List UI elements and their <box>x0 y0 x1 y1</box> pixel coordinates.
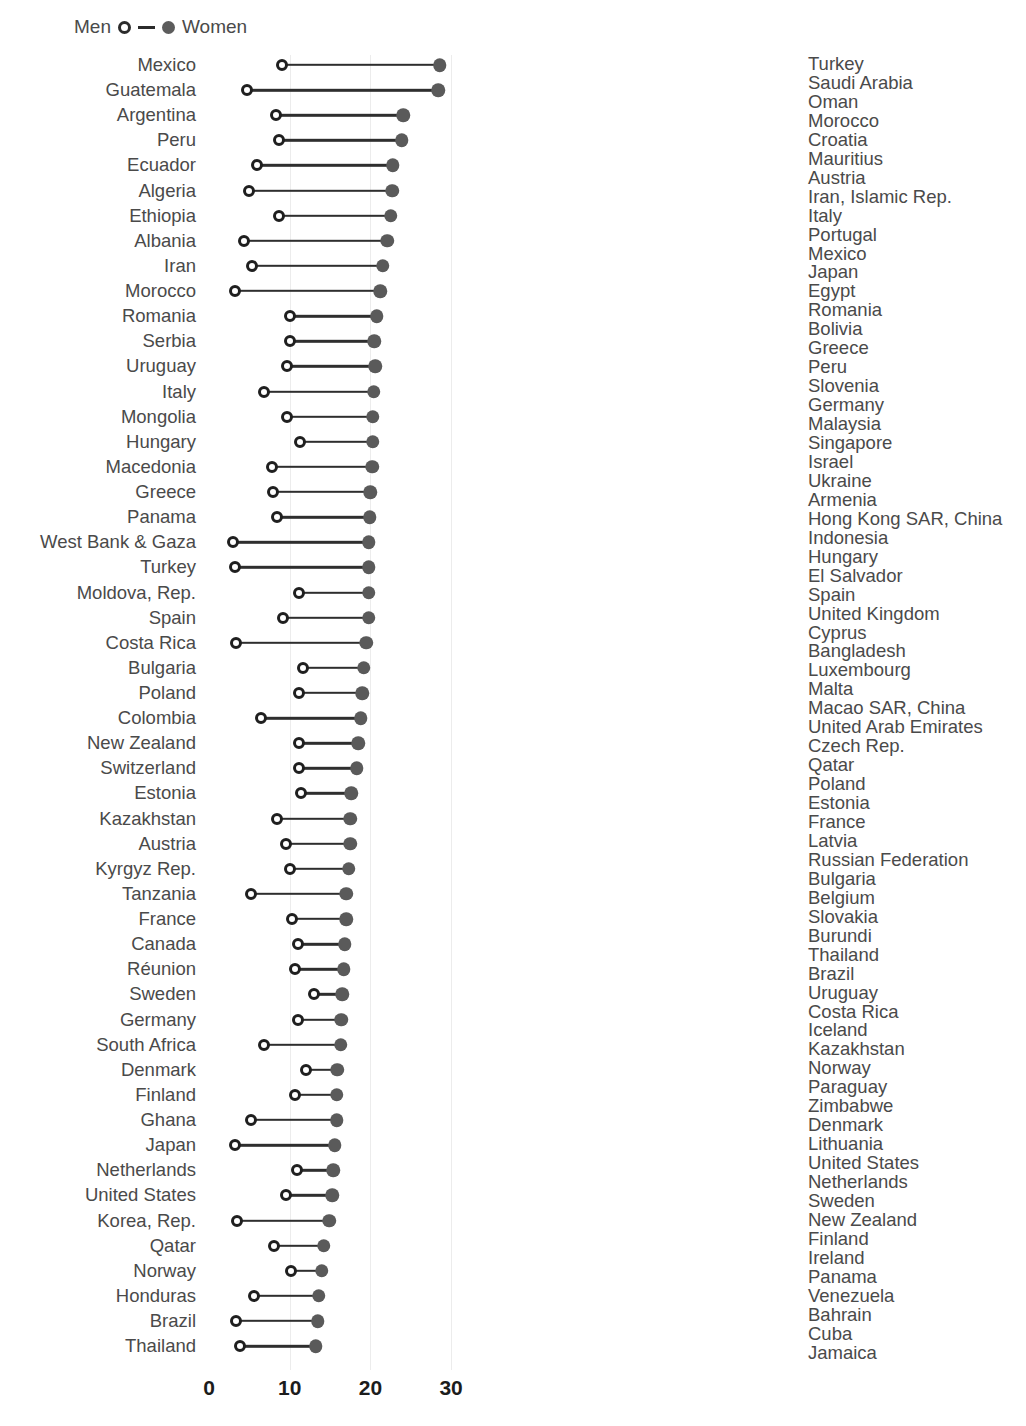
men-dot[interactable] <box>276 59 288 71</box>
women-dot[interactable] <box>366 435 380 449</box>
women-dot[interactable] <box>312 1289 326 1303</box>
women-dot[interactable] <box>342 862 356 876</box>
men-dot[interactable] <box>289 963 301 975</box>
men-dot[interactable] <box>293 687 305 699</box>
men-dot[interactable] <box>227 536 239 548</box>
women-dot[interactable] <box>395 134 409 148</box>
women-dot[interactable] <box>366 410 380 424</box>
women-dot[interactable] <box>433 58 447 72</box>
men-dot[interactable] <box>273 134 285 146</box>
women-dot[interactable] <box>376 259 390 273</box>
women-dot[interactable] <box>356 686 370 700</box>
men-dot[interactable] <box>238 235 250 247</box>
men-dot[interactable] <box>277 612 289 624</box>
women-dot[interactable] <box>338 937 352 951</box>
women-dot[interactable] <box>309 1339 323 1353</box>
men-dot[interactable] <box>231 1215 243 1227</box>
men-dot[interactable] <box>293 737 305 749</box>
men-dot[interactable] <box>248 1290 260 1302</box>
women-dot[interactable] <box>362 611 376 625</box>
men-dot[interactable] <box>268 1240 280 1252</box>
women-dot[interactable] <box>330 1113 344 1127</box>
women-dot[interactable] <box>362 586 376 600</box>
men-dot[interactable] <box>243 185 255 197</box>
women-dot[interactable] <box>364 485 378 499</box>
men-dot[interactable] <box>245 888 257 900</box>
men-dot[interactable] <box>245 1114 257 1126</box>
men-dot[interactable] <box>284 335 296 347</box>
men-dot[interactable] <box>292 1014 304 1026</box>
men-dot[interactable] <box>255 712 267 724</box>
women-dot[interactable] <box>360 636 374 650</box>
men-dot[interactable] <box>267 486 279 498</box>
men-dot[interactable] <box>281 411 293 423</box>
men-dot[interactable] <box>285 1265 297 1277</box>
women-dot[interactable] <box>352 736 366 750</box>
men-dot[interactable] <box>284 310 296 322</box>
women-dot[interactable] <box>381 234 395 248</box>
women-dot[interactable] <box>327 1164 341 1178</box>
men-dot[interactable] <box>281 360 293 372</box>
women-dot[interactable] <box>330 1088 344 1102</box>
women-dot[interactable] <box>368 360 382 374</box>
men-dot[interactable] <box>258 386 270 398</box>
men-dot[interactable] <box>229 561 241 573</box>
men-dot[interactable] <box>286 913 298 925</box>
women-dot[interactable] <box>334 1038 348 1052</box>
men-dot[interactable] <box>284 863 296 875</box>
men-dot[interactable] <box>273 210 285 222</box>
men-dot[interactable] <box>241 84 253 96</box>
women-dot[interactable] <box>335 1013 349 1027</box>
women-dot[interactable] <box>431 83 445 97</box>
women-dot[interactable] <box>370 309 384 323</box>
men-dot[interactable] <box>230 637 242 649</box>
women-dot[interactable] <box>354 711 368 725</box>
women-dot[interactable] <box>328 1138 342 1152</box>
men-dot[interactable] <box>234 1340 246 1352</box>
men-dot[interactable] <box>251 159 263 171</box>
women-dot[interactable] <box>373 284 387 298</box>
men-dot[interactable] <box>271 511 283 523</box>
men-dot[interactable] <box>294 436 306 448</box>
women-dot[interactable] <box>344 787 358 801</box>
men-dot[interactable] <box>292 938 304 950</box>
women-dot[interactable] <box>343 837 357 851</box>
women-dot[interactable] <box>362 561 376 575</box>
women-dot[interactable] <box>357 661 371 675</box>
women-dot[interactable] <box>326 1189 340 1203</box>
women-dot[interactable] <box>343 812 357 826</box>
men-dot[interactable] <box>266 461 278 473</box>
women-dot[interactable] <box>365 460 379 474</box>
women-dot[interactable] <box>363 510 377 524</box>
women-dot[interactable] <box>322 1214 336 1228</box>
women-dot[interactable] <box>339 887 353 901</box>
women-dot[interactable] <box>385 184 399 198</box>
men-dot[interactable] <box>230 1315 242 1327</box>
men-dot[interactable] <box>280 1189 292 1201</box>
men-dot[interactable] <box>258 1039 270 1051</box>
women-dot[interactable] <box>315 1264 329 1278</box>
men-dot[interactable] <box>270 109 282 121</box>
women-dot[interactable] <box>368 335 382 349</box>
women-dot[interactable] <box>367 385 381 399</box>
women-dot[interactable] <box>362 536 376 550</box>
women-dot[interactable] <box>386 159 400 173</box>
men-dot[interactable] <box>280 838 292 850</box>
men-dot[interactable] <box>300 1064 312 1076</box>
women-dot[interactable] <box>335 988 349 1002</box>
men-dot[interactable] <box>291 1164 303 1176</box>
men-dot[interactable] <box>308 988 320 1000</box>
men-dot[interactable] <box>293 762 305 774</box>
men-dot[interactable] <box>229 285 241 297</box>
men-dot[interactable] <box>293 587 305 599</box>
women-dot[interactable] <box>331 1063 345 1077</box>
men-dot[interactable] <box>295 787 307 799</box>
men-dot[interactable] <box>289 1089 301 1101</box>
men-dot[interactable] <box>246 260 258 272</box>
women-dot[interactable] <box>317 1239 331 1253</box>
women-dot[interactable] <box>339 912 353 926</box>
women-dot[interactable] <box>311 1314 325 1328</box>
men-dot[interactable] <box>297 662 309 674</box>
women-dot[interactable] <box>397 108 411 122</box>
men-dot[interactable] <box>271 813 283 825</box>
